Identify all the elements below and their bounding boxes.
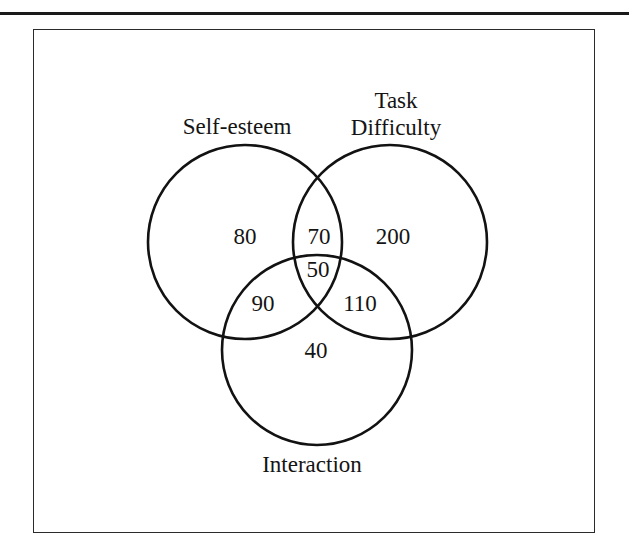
label-task-difficulty-line1: Task [374,87,417,114]
label-task-difficulty-line2: Difficulty [351,114,441,141]
value-self-esteem-task-difficulty: 70 [308,225,331,248]
value-all-three: 50 [307,258,330,281]
value-self-esteem-only: 80 [234,225,257,248]
label-interaction: Interaction [262,451,362,478]
value-task-difficulty-only: 200 [376,225,411,248]
label-self-esteem: Self-esteem [183,113,292,140]
value-interaction-only: 40 [305,339,328,362]
value-self-esteem-interaction: 90 [252,292,275,315]
value-task-difficulty-interaction: 110 [343,292,377,315]
